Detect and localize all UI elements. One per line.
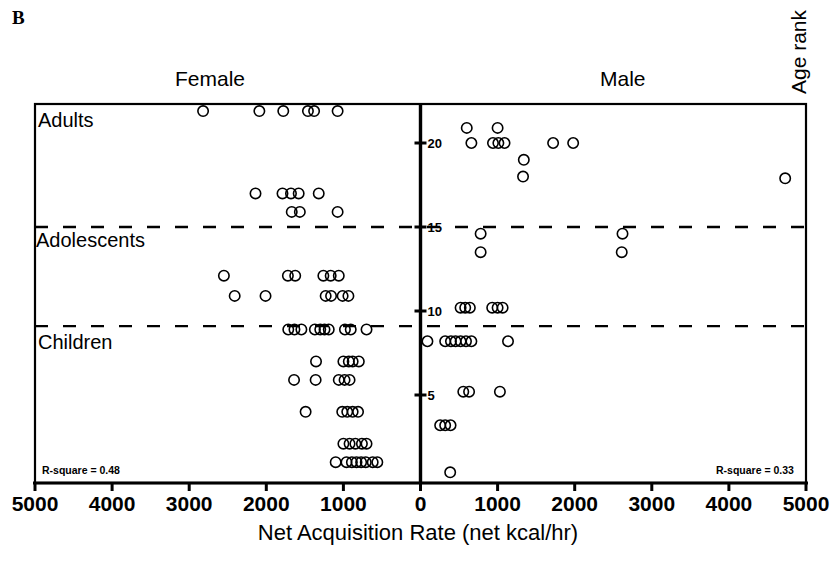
data-point bbox=[519, 155, 529, 165]
data-point bbox=[229, 291, 239, 301]
data-point bbox=[422, 336, 432, 346]
center-age-rank-axis bbox=[415, 104, 427, 483]
data-point bbox=[617, 247, 627, 257]
data-point bbox=[278, 106, 288, 116]
data-point bbox=[475, 229, 485, 239]
data-point bbox=[361, 324, 371, 334]
data-point bbox=[499, 138, 509, 148]
x-tick-label: 2000 bbox=[243, 493, 290, 514]
data-point bbox=[293, 188, 303, 198]
data-point bbox=[617, 229, 627, 239]
data-point bbox=[568, 138, 578, 148]
figure-panel-b: B Female Male Age rank Adults Adolescent… bbox=[0, 0, 836, 562]
data-point bbox=[492, 123, 502, 133]
y-tick-label: 20 bbox=[428, 137, 442, 150]
data-point bbox=[445, 467, 455, 477]
x-axis-title: Net Acquisition Rate (net kcal/hr) bbox=[0, 522, 836, 544]
x-tick-label: 4000 bbox=[706, 493, 753, 514]
x-axis-line bbox=[33, 483, 808, 491]
data-point bbox=[548, 138, 558, 148]
data-point bbox=[290, 271, 300, 281]
data-points-male bbox=[422, 123, 790, 478]
data-point bbox=[332, 207, 342, 217]
data-point bbox=[475, 247, 485, 257]
x-tick-label: 1000 bbox=[474, 493, 521, 514]
x-tick-label: 5000 bbox=[783, 493, 830, 514]
data-point bbox=[314, 188, 324, 198]
data-point bbox=[332, 106, 342, 116]
y-tick-label: 10 bbox=[428, 305, 442, 318]
x-tick-label: 4000 bbox=[89, 493, 136, 514]
data-point bbox=[250, 188, 260, 198]
data-point bbox=[495, 386, 505, 396]
data-point bbox=[310, 375, 320, 385]
data-point bbox=[311, 356, 321, 366]
data-point bbox=[296, 324, 306, 334]
y-tick-label: 15 bbox=[428, 221, 442, 234]
data-point bbox=[780, 173, 790, 183]
y-tick-label: 5 bbox=[428, 389, 435, 402]
data-point bbox=[289, 375, 299, 385]
data-point bbox=[518, 171, 528, 181]
data-point bbox=[354, 356, 364, 366]
data-point bbox=[462, 123, 472, 133]
data-point bbox=[466, 138, 476, 148]
x-tick-label: 5000 bbox=[12, 493, 59, 514]
x-tick-label: 0 bbox=[415, 493, 427, 514]
data-point bbox=[219, 271, 229, 281]
data-point bbox=[503, 336, 513, 346]
data-point bbox=[300, 407, 310, 417]
x-tick-label: 1000 bbox=[320, 493, 367, 514]
data-point bbox=[309, 106, 319, 116]
data-point bbox=[260, 291, 270, 301]
scatter-plot-canvas bbox=[0, 0, 836, 562]
data-point bbox=[198, 106, 208, 116]
data-point bbox=[254, 106, 264, 116]
data-point bbox=[330, 457, 340, 467]
x-tick-label: 3000 bbox=[628, 493, 675, 514]
x-tick-label: 3000 bbox=[166, 493, 213, 514]
x-tick-label: 2000 bbox=[551, 493, 598, 514]
data-points-female bbox=[198, 106, 383, 468]
